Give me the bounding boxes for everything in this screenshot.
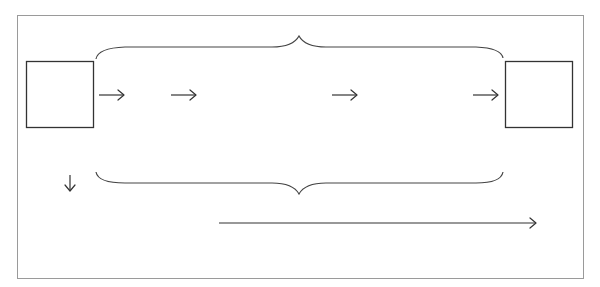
right-arrow-icon [473,90,498,100]
right-arrow-icon [99,90,124,100]
right-arrow-icon [332,90,357,100]
bottom-brace [96,172,503,194]
top-brace [96,36,503,59]
long-right-arrow-icon [219,218,536,228]
diagram-canvas [0,0,600,287]
diagram-frame [18,16,584,279]
right-arrow-icon [171,90,196,100]
down-arrow-icon [65,175,75,191]
left-node-box [27,62,94,128]
right-node-box [506,62,573,128]
